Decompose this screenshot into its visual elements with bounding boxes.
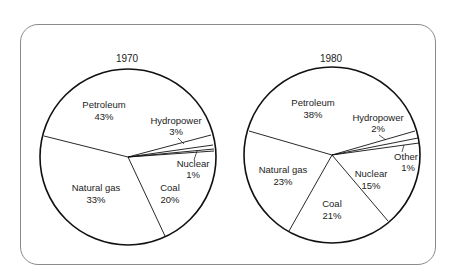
- divider-gas-petroleum: [249, 131, 332, 155]
- pct-coal-1980: 21%: [322, 210, 342, 221]
- label-natural-gas-1970: Natural gas: [72, 182, 121, 193]
- label-coal-1970: Coal: [160, 182, 180, 193]
- divider-gas-petroleum: [44, 136, 128, 157]
- divider-hydro-other: [128, 145, 213, 157]
- label-hydropower-1980: Hydropower: [352, 112, 403, 123]
- pie-1980: 1980 Petroleum 38% Hydropower 2% Other 1…: [244, 53, 420, 243]
- label-nuclear-1970: Nuclear: [177, 158, 210, 169]
- label-petroleum-1970: Petroleum: [82, 99, 125, 110]
- pct-nuclear-1980: 15%: [361, 180, 381, 191]
- pct-natural-gas-1980: 23%: [273, 176, 293, 187]
- pie-charts: 1970 Petroleum 43% Hydropower 3% Nuclear…: [0, 0, 449, 279]
- label-other-1980: Other: [394, 151, 418, 162]
- label-nuclear-1980: Nuclear: [355, 168, 388, 179]
- leader-hydropower: [379, 135, 386, 140]
- label-petroleum-1980: Petroleum: [291, 97, 334, 108]
- pct-other-1980: 1%: [401, 162, 415, 173]
- pct-petroleum-1980: 38%: [303, 109, 323, 120]
- pct-natural-gas-1970: 33%: [86, 194, 106, 205]
- pie-title-1980: 1980: [320, 53, 343, 64]
- label-natural-gas-1980: Natural gas: [259, 164, 308, 175]
- pct-petroleum-1970: 43%: [94, 111, 114, 122]
- label-hydropower-1970: Hydropower: [150, 115, 201, 126]
- pie-1970: 1970 Petroleum 43% Hydropower 3% Nuclear…: [40, 53, 216, 245]
- pie-title-1970: 1970: [116, 53, 139, 64]
- pct-coal-1970: 20%: [160, 194, 180, 205]
- divider-coal-gas: [128, 157, 165, 236]
- pct-hydropower-1970: 3%: [169, 126, 183, 137]
- label-coal-1980: Coal: [322, 198, 342, 209]
- pct-hydropower-1980: 2%: [371, 123, 385, 134]
- pct-nuclear-1970: 1%: [186, 169, 200, 180]
